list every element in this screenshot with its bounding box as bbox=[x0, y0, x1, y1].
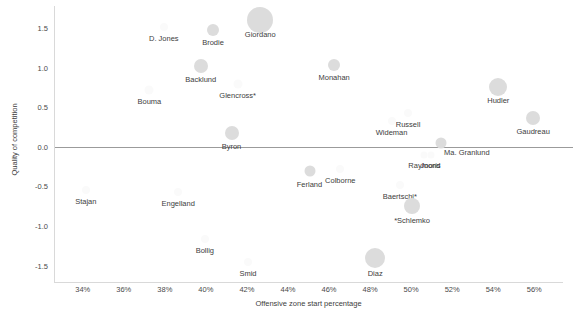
x-axis-tick: 38% bbox=[157, 285, 172, 294]
data-point-bubble[interactable] bbox=[82, 186, 90, 194]
x-axis-title: Offensive zone start percentage bbox=[54, 299, 563, 308]
y-axis-tick: -0.5 bbox=[35, 182, 48, 191]
x-axis-tick: 44% bbox=[280, 285, 295, 294]
data-point-bubble[interactable] bbox=[526, 111, 540, 125]
x-axis-tick: 52% bbox=[445, 285, 460, 294]
x-axis-tick: 56% bbox=[527, 285, 542, 294]
data-point-bubble[interactable] bbox=[174, 188, 182, 196]
y-axis-tick: 1.0 bbox=[38, 63, 48, 72]
data-point-label: Colborne bbox=[325, 176, 355, 185]
data-point-label: Hudler bbox=[487, 96, 509, 105]
data-point-label: Byron bbox=[222, 142, 242, 151]
data-point-label: Smid bbox=[239, 269, 256, 278]
data-point-bubble[interactable] bbox=[489, 78, 507, 96]
data-point-label: Brodie bbox=[202, 38, 224, 47]
y-axis-tick: 0.5 bbox=[38, 103, 48, 112]
data-point-bubble[interactable] bbox=[207, 24, 219, 36]
data-point-bubble[interactable] bbox=[404, 109, 412, 117]
data-point-label: Stajan bbox=[75, 197, 96, 206]
data-point-label: Glencross* bbox=[219, 91, 256, 100]
x-axis-tick: 34% bbox=[75, 285, 90, 294]
data-point-label: Ma. Granlund bbox=[444, 148, 489, 157]
data-point-label: Monahan bbox=[318, 73, 349, 82]
data-point-label: *Schlemko bbox=[394, 216, 430, 225]
data-point-bubble[interactable] bbox=[244, 258, 252, 266]
data-point-bubble[interactable] bbox=[145, 85, 154, 94]
plot-inner: GiordanoBrodieD. JonesBacklundMonahanGle… bbox=[55, 6, 563, 282]
data-point-label: Engelland bbox=[161, 199, 194, 208]
data-point-bubble[interactable] bbox=[304, 165, 315, 176]
x-axis-tick: 46% bbox=[322, 285, 337, 294]
y-axis-tick: 1.5 bbox=[38, 24, 48, 33]
y-axis-title: Quality of competition bbox=[10, 80, 19, 200]
x-axis-tick: 36% bbox=[116, 285, 131, 294]
y-axis-tick: -1.5 bbox=[35, 261, 48, 270]
y-axis-tick-labels: 1.51.00.50.0-0.5-1.0-1.5 bbox=[0, 6, 48, 283]
plot-area: GiordanoBrodieD. JonesBacklundMonahanGle… bbox=[54, 6, 563, 283]
data-point-bubble[interactable] bbox=[388, 117, 396, 125]
data-point-label: Jooris bbox=[421, 161, 441, 170]
data-point-label: Bollig bbox=[196, 246, 214, 255]
data-point-bubble[interactable] bbox=[427, 151, 434, 158]
data-point-label: Bouma bbox=[138, 97, 162, 106]
data-point-label: Diaz bbox=[368, 269, 383, 278]
clipped-chart-title bbox=[28, 0, 328, 4]
y-axis-tick: -1.0 bbox=[35, 222, 48, 231]
y-axis-tick: 0.0 bbox=[38, 142, 48, 151]
data-point-bubble[interactable] bbox=[435, 137, 446, 148]
data-point-label: Wideman bbox=[376, 128, 408, 137]
data-point-bubble[interactable] bbox=[233, 79, 242, 88]
data-point-bubble[interactable] bbox=[365, 248, 385, 268]
data-point-bubble[interactable] bbox=[160, 23, 168, 31]
x-axis-tick: 50% bbox=[404, 285, 419, 294]
data-point-bubble[interactable] bbox=[328, 59, 340, 71]
data-point-label: D. Jones bbox=[149, 34, 179, 43]
data-point-bubble[interactable] bbox=[201, 235, 209, 243]
data-point-bubble[interactable] bbox=[404, 198, 420, 214]
data-point-bubble[interactable] bbox=[194, 59, 208, 73]
data-point-bubble[interactable] bbox=[396, 181, 404, 189]
x-axis-tick: 40% bbox=[198, 285, 213, 294]
x-axis-tick: 42% bbox=[239, 285, 254, 294]
data-point-label: Ferland bbox=[297, 180, 322, 189]
x-axis-tick-labels: 34%36%38%40%42%44%46%48%50%52%54%56% bbox=[54, 285, 563, 299]
data-point-bubble[interactable] bbox=[225, 126, 239, 140]
data-point-label: Giordano bbox=[245, 30, 276, 39]
data-point-bubble[interactable] bbox=[336, 165, 344, 173]
scatter-chart: 1.51.00.50.0-0.5-1.0-1.5 GiordanoBrodieD… bbox=[0, 0, 573, 314]
data-point-label: Gaudreau bbox=[517, 127, 550, 136]
zero-reference-line bbox=[55, 147, 573, 148]
x-axis-tick: 54% bbox=[486, 285, 501, 294]
x-axis-tick: 48% bbox=[363, 285, 378, 294]
data-point-label: Backlund bbox=[185, 75, 216, 84]
